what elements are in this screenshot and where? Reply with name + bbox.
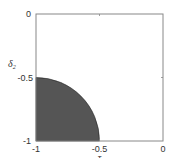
chart: 0 -0.5 -1 -1 -0.5 0 δ2 τ (0, 0, 171, 158)
y-tick-label: -0.5 (17, 73, 33, 83)
shaded-region (36, 78, 100, 142)
x-axis-label: τ (98, 152, 102, 158)
y-axis-label: δ2 (8, 58, 16, 70)
x-tick-label: -1 (32, 144, 40, 154)
y-tick-label: -1 (23, 136, 31, 146)
x-tick-label: 0 (160, 144, 165, 154)
y-tick-label: 0 (26, 9, 31, 19)
